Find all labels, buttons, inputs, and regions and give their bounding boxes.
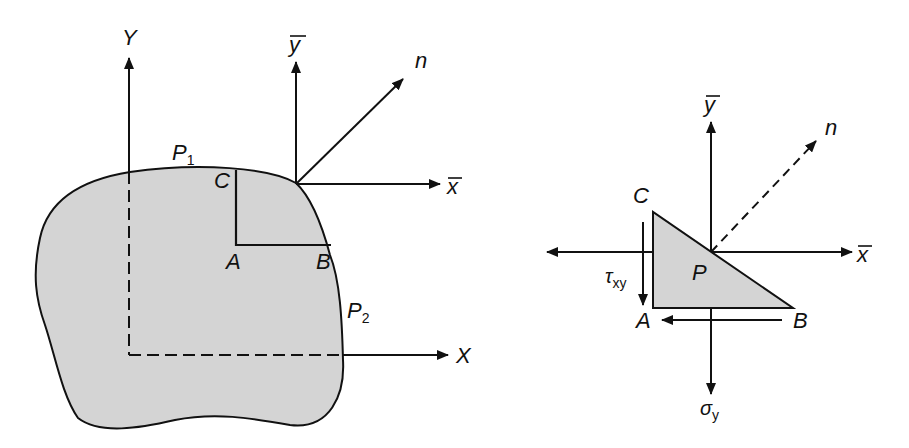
label-Y: Y <box>122 25 138 50</box>
label-P1: P1 <box>172 140 195 168</box>
label-X: X <box>455 343 472 368</box>
right-panel: y x n C P A B τxy σy <box>547 92 872 423</box>
label-tau-xy: τxy <box>605 265 626 291</box>
body-region <box>36 167 343 428</box>
label-P2: P2 <box>347 298 370 326</box>
label-C: C <box>214 168 230 193</box>
stress-diagram: Y X y x n P1 P2 C A B y x n C <box>0 0 909 448</box>
left-panel: Y X y x n P1 P2 C A B <box>36 25 472 428</box>
label-n: n <box>415 48 427 73</box>
label-B: B <box>316 249 331 274</box>
label-P: P <box>692 260 707 285</box>
label-A: A <box>224 249 241 274</box>
label-C: C <box>633 183 649 208</box>
label-n: n <box>825 115 837 140</box>
label-sigma-y: σy <box>700 397 719 423</box>
normal-n-dashed <box>711 141 816 252</box>
label-B: B <box>793 308 808 333</box>
label-A: A <box>634 308 651 333</box>
element-triangle <box>653 212 793 308</box>
normal-n <box>296 79 403 184</box>
